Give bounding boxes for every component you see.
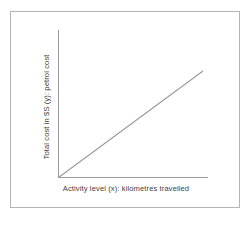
y-axis-title: Total cost in $S (y): petrol cost xyxy=(40,32,54,182)
x-axis-title: Activity level (x): kilometres travelled xyxy=(0,184,252,194)
data-line-total-variable-cost xyxy=(59,71,204,178)
